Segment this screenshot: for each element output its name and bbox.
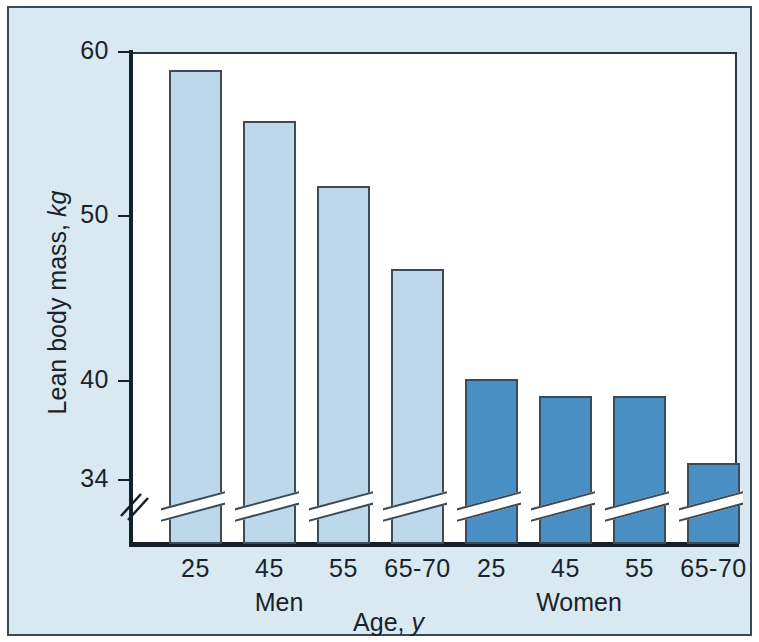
x-tick-label-men-65-70: 65-70 <box>377 554 458 583</box>
x-axis-title-unit: y <box>404 608 423 636</box>
y-axis-title: Lean body mass, kg <box>43 103 72 503</box>
bar-women-55 <box>613 396 666 544</box>
y-tick-mark-40 <box>118 380 131 382</box>
y-axis-title-main: Lean body mass, <box>43 224 71 414</box>
y-axis-title-unit: kg <box>43 191 71 224</box>
bar-men-25 <box>169 70 222 544</box>
bar-men-55 <box>317 186 370 544</box>
y-axis-line <box>129 50 133 546</box>
bar-women-45 <box>539 396 592 544</box>
x-tick-label-women-25: 25 <box>451 554 532 583</box>
bar-men-65-70 <box>391 269 444 544</box>
x-axis-title-main: Age, <box>353 608 404 636</box>
y-tick-mark-50 <box>118 215 131 217</box>
y-tick-label-60: 60 <box>49 36 109 65</box>
y-tick-mark-60 <box>118 51 131 53</box>
y-tick-mark-34 <box>118 479 131 481</box>
bar-women-25 <box>465 379 518 544</box>
figure-frame: 60 50 40 34 <box>7 6 752 636</box>
x-tick-label-women-65-70: 65-70 <box>673 554 754 583</box>
x-tick-label-men-25: 25 <box>155 554 236 583</box>
x-tick-label-women-55: 55 <box>599 554 680 583</box>
y-axis-break-icon <box>117 490 151 524</box>
x-tick-label-women-45: 45 <box>525 554 606 583</box>
x-tick-label-men-55: 55 <box>303 554 384 583</box>
x-tick-label-men-45: 45 <box>229 554 310 583</box>
bar-men-45 <box>243 121 296 544</box>
x-axis-title: Age, y <box>9 608 759 637</box>
bar-women-65-70 <box>687 463 740 544</box>
figure-container: 60 50 40 34 <box>0 0 759 642</box>
